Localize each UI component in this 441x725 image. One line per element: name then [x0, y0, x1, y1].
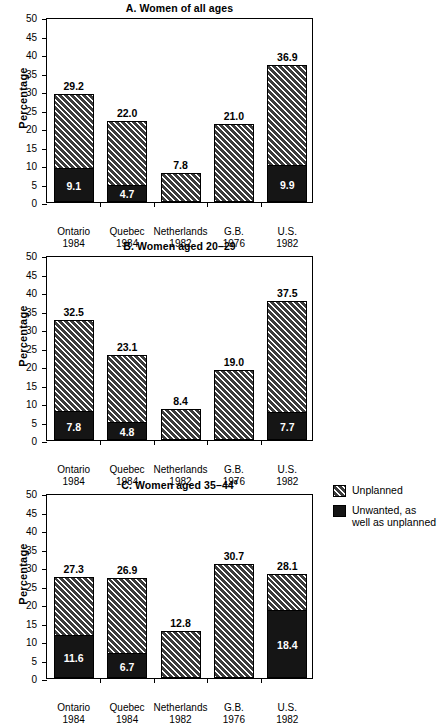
bar-total-value-label: 21.0	[224, 110, 244, 122]
y-tick-label: 40	[11, 527, 37, 537]
x-tick-mark	[207, 678, 208, 683]
hatch-diagonal-swatch-icon	[333, 485, 346, 497]
x-category-year: 1982	[258, 714, 317, 725]
x-tick-mark	[154, 678, 155, 683]
bar-segment-unplanned	[161, 409, 201, 440]
bar-total-value-label: 23.1	[117, 341, 137, 353]
x-category-year: 1976	[204, 714, 263, 725]
bar-0[interactable]: 11.6	[54, 577, 94, 678]
y-tick-mark	[42, 149, 47, 150]
x-tick-mark	[100, 678, 101, 683]
bar-3[interactable]	[214, 564, 254, 678]
bar-2[interactable]	[161, 631, 201, 678]
x-category-label: Quebec1984	[97, 702, 156, 725]
panel-b-plot-area: 051015202530354045507.832.5Ontario19844.…	[46, 256, 313, 441]
y-tick-label: 30	[11, 88, 37, 98]
bar-segment-unplanned	[161, 631, 201, 678]
y-tick-mark	[42, 56, 47, 57]
y-tick-label: 25	[11, 583, 37, 593]
chart-panel-a: A. Women of all ages Percentage 05101520…	[0, 0, 441, 238]
y-tick-mark	[42, 313, 47, 314]
panel-a-plot-area: 051015202530354045509.129.2Ontario19844.…	[46, 18, 313, 203]
y-tick-label: 35	[11, 546, 37, 556]
y-tick-mark	[42, 532, 47, 533]
panel-b-title: B. Women aged 20–29	[46, 240, 313, 252]
x-tick-mark	[100, 440, 101, 445]
bar-4[interactable]: 7.7	[267, 301, 307, 440]
bar-total-value-label: 30.7	[224, 550, 244, 562]
x-tick-mark	[207, 202, 208, 207]
y-tick-mark	[42, 294, 47, 295]
bar-inner-value-label: 4.8	[120, 426, 135, 438]
bar-4[interactable]: 18.4	[267, 574, 307, 678]
x-category-name: U.S.	[258, 702, 317, 714]
chart-panel-b: B. Women aged 20–29 Percentage 051015202…	[0, 238, 441, 476]
bar-inner-value-label: 7.7	[280, 421, 295, 433]
x-category-year: 1984	[97, 714, 156, 725]
bar-0[interactable]: 9.1	[54, 94, 94, 202]
bar-0[interactable]: 7.8	[54, 320, 94, 440]
y-tick-mark	[42, 167, 47, 168]
y-tick-label: 20	[11, 363, 37, 373]
bar-total-value-label: 12.8	[170, 617, 190, 629]
panel-c-title-text: C. Women aged 35–44	[121, 479, 234, 491]
y-tick-label: 5	[11, 181, 37, 191]
bar-2[interactable]	[161, 409, 201, 440]
x-category-name: G.B.	[204, 702, 263, 714]
x-tick-mark	[261, 202, 262, 207]
bar-total-value-label: 7.8	[173, 159, 188, 171]
y-tick-mark	[42, 93, 47, 94]
bar-4[interactable]: 9.9	[267, 65, 307, 202]
panel-b-plot-inner: 051015202530354045507.832.5Ontario19844.…	[47, 257, 312, 440]
y-tick-mark	[42, 112, 47, 113]
bar-1[interactable]: 4.7	[107, 121, 147, 202]
y-tick-label: 30	[11, 326, 37, 336]
bar-1[interactable]: 4.8	[107, 355, 147, 440]
bar-inner-value-label: 18.4	[277, 639, 297, 651]
panel-c-plot-area: 0510152025303540455011.627.3Ontario19846…	[46, 494, 313, 679]
y-tick-label: 5	[11, 419, 37, 429]
y-tick-mark	[42, 569, 47, 570]
bar-3[interactable]	[214, 124, 254, 202]
y-tick-mark	[42, 442, 47, 443]
legend-item-unwanted: Unwanted, as well as unplanned	[333, 504, 441, 529]
y-tick-label: 0	[11, 675, 37, 685]
y-tick-mark	[42, 625, 47, 626]
y-tick-mark	[42, 588, 47, 589]
y-tick-label: 15	[11, 382, 37, 392]
y-tick-mark	[42, 186, 47, 187]
x-category-name: Quebec	[97, 464, 156, 476]
legend-item-unplanned: Unplanned	[333, 484, 441, 497]
bar-inner-value-label: 7.8	[66, 421, 81, 433]
bar-inner-value-label: 11.6	[64, 652, 84, 664]
x-category-label: G.B.1976	[204, 702, 263, 725]
x-category-name: Ontario	[44, 702, 103, 714]
legend-label-unwanted: Unwanted, as well as unplanned	[352, 504, 441, 529]
x-tick-mark	[154, 440, 155, 445]
y-tick-label: 5	[11, 657, 37, 667]
y-tick-mark	[42, 38, 47, 39]
x-category-name: U.S.	[258, 464, 317, 476]
y-tick-label: 50	[11, 14, 37, 24]
y-tick-label: 45	[11, 509, 37, 519]
y-tick-label: 0	[11, 199, 37, 209]
x-category-name: G.B.	[204, 226, 263, 238]
bar-segment-unplanned	[214, 564, 254, 678]
x-tick-mark	[154, 202, 155, 207]
bar-total-value-label: 27.3	[63, 563, 83, 575]
bar-1[interactable]: 6.7	[107, 578, 147, 678]
y-tick-mark	[42, 495, 47, 496]
bar-inner-value-label: 4.7	[120, 188, 135, 200]
bar-3[interactable]	[214, 370, 254, 440]
y-tick-mark	[42, 257, 47, 258]
bar-total-value-label: 26.9	[117, 564, 137, 576]
x-category-name: Quebec	[97, 226, 156, 238]
bar-2[interactable]	[161, 173, 201, 202]
bar-total-value-label: 28.1	[277, 560, 297, 572]
y-tick-mark	[42, 424, 47, 425]
y-tick-label: 35	[11, 70, 37, 80]
bar-total-value-label: 29.2	[63, 80, 83, 92]
y-tick-mark	[42, 19, 47, 20]
x-category-label: Netherlands1982	[151, 702, 210, 725]
